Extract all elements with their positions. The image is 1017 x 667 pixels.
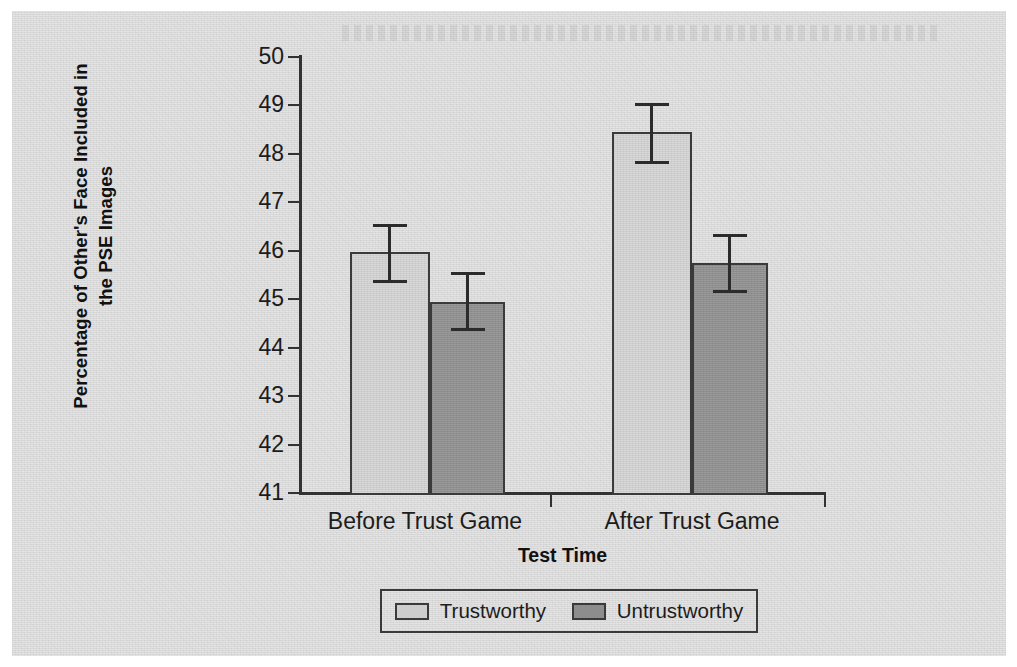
x-axis-title: Test Time — [299, 544, 826, 567]
error-bar-cap-upper-before-trustworthy — [373, 224, 407, 227]
y-tick-label-44: 44 — [238, 336, 284, 359]
bar-chart-plot: 50 49 48 47 46 45 44 43 — [12, 11, 1006, 656]
y-tick-label-46: 46 — [238, 239, 284, 262]
error-bar-stem-before-untrustworthy — [466, 272, 469, 330]
y-tick-label-49: 49 — [238, 93, 284, 116]
y-axis-title-line-1: Percentage of Other's Face Included in — [70, 63, 91, 408]
y-tick-46 — [288, 250, 300, 252]
error-bar-stem-after-trustworthy — [650, 103, 653, 163]
y-tick-label-50-wrap: 50 — [228, 45, 284, 69]
bar-after-untrustworthy[interactable] — [692, 263, 768, 495]
legend-label-untrustworthy: Untrustworthy — [617, 599, 743, 623]
error-bar-cap-lower-before-untrustworthy — [451, 328, 485, 331]
y-tick-50 — [288, 56, 300, 58]
y-tick-label-48-wrap: 48 — [228, 142, 284, 166]
y-tick-label-45: 45 — [238, 287, 284, 310]
legend-swatch-untrustworthy-icon — [572, 603, 606, 620]
bar-after-trustworthy[interactable] — [612, 132, 692, 495]
y-tick-label-43: 43 — [238, 384, 284, 407]
error-bar-cap-lower-before-trustworthy — [373, 280, 407, 283]
y-axis-line — [299, 55, 302, 495]
error-bar-cap-upper-before-untrustworthy — [451, 272, 485, 275]
y-tick-label-41-wrap: 41 — [228, 481, 284, 505]
y-tick-label-41: 41 — [238, 481, 284, 504]
y-tick-label-42-wrap: 42 — [228, 433, 284, 457]
scanned-figure-area: 50 49 48 47 46 45 44 43 — [12, 11, 1006, 656]
y-tick-41 — [288, 492, 300, 494]
y-axis-title: Percentage of Other's Face Included in t… — [69, 36, 119, 436]
error-bar-cap-lower-after-trustworthy — [635, 161, 669, 164]
x-category-label-before: Before Trust Game — [295, 508, 555, 535]
y-tick-45 — [288, 298, 300, 300]
y-tick-label-48: 48 — [238, 142, 284, 165]
legend-entry-untrustworthy[interactable]: Untrustworthy — [572, 599, 743, 623]
y-tick-label-47: 47 — [238, 190, 284, 213]
y-tick-label-44-wrap: 44 — [228, 336, 284, 360]
y-tick-49 — [288, 104, 300, 106]
y-tick-label-49-wrap: 49 — [228, 93, 284, 117]
legend-entry-trustworthy[interactable]: Trustworthy — [395, 599, 546, 623]
y-tick-48 — [288, 153, 300, 155]
y-tick-label-50: 50 — [238, 45, 284, 68]
error-bar-cap-upper-after-untrustworthy — [713, 234, 747, 237]
x-tick-axis-end — [824, 495, 826, 507]
legend-label-trustworthy: Trustworthy — [440, 599, 546, 623]
y-tick-47 — [288, 201, 300, 203]
y-tick-44 — [288, 347, 300, 349]
figure-page: 50 49 48 47 46 45 44 43 — [0, 0, 1017, 667]
error-bar-cap-lower-after-untrustworthy — [713, 290, 747, 293]
y-tick-43 — [288, 395, 300, 397]
y-axis-title-line-2: the PSE Images — [95, 166, 116, 306]
y-tick-label-45-wrap: 45 — [228, 287, 284, 311]
x-tick-group-separator — [550, 495, 552, 507]
y-tick-label-46-wrap: 46 — [228, 239, 284, 263]
bar-before-trustworthy[interactable] — [350, 252, 430, 495]
error-bar-stem-before-trustworthy — [388, 224, 391, 282]
x-category-label-after: After Trust Game — [572, 508, 812, 535]
error-bar-cap-upper-after-trustworthy — [635, 103, 669, 106]
y-tick-label-42: 42 — [238, 433, 284, 456]
y-tick-label-43-wrap: 43 — [228, 384, 284, 408]
chart-legend: Trustworthy Untrustworthy — [380, 589, 758, 633]
y-tick-42 — [288, 444, 300, 446]
y-tick-label-47-wrap: 47 — [228, 190, 284, 214]
legend-swatch-trustworthy-icon — [395, 603, 429, 620]
error-bar-stem-after-untrustworthy — [728, 234, 731, 292]
